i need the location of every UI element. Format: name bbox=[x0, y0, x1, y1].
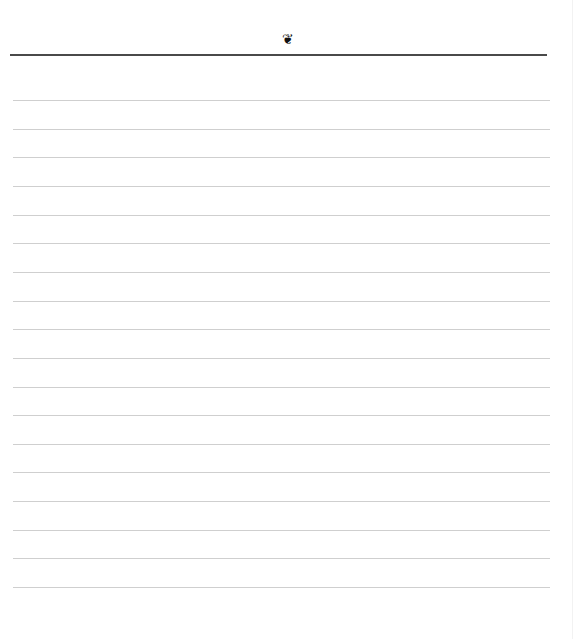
ruled-line bbox=[13, 444, 550, 445]
ruled-line bbox=[13, 387, 550, 388]
ruled-line bbox=[13, 157, 550, 158]
ruled-line bbox=[13, 415, 550, 416]
ruled-line bbox=[13, 587, 550, 588]
ruled-line bbox=[13, 215, 550, 216]
ruled-line bbox=[13, 129, 550, 130]
ruled-line bbox=[13, 243, 550, 244]
ruled-line bbox=[13, 301, 550, 302]
ruled-line bbox=[13, 472, 550, 473]
ruled-line bbox=[13, 358, 550, 359]
ruled-lines-area bbox=[0, 0, 575, 639]
ruled-line bbox=[13, 501, 550, 502]
ruled-line bbox=[13, 100, 550, 101]
ruled-line bbox=[13, 272, 550, 273]
ruled-line bbox=[13, 186, 550, 187]
page-edge bbox=[572, 0, 573, 639]
notepaper-page: ❦ bbox=[0, 0, 575, 639]
ruled-line bbox=[13, 329, 550, 330]
ruled-line bbox=[13, 530, 550, 531]
ruled-line bbox=[13, 558, 550, 559]
